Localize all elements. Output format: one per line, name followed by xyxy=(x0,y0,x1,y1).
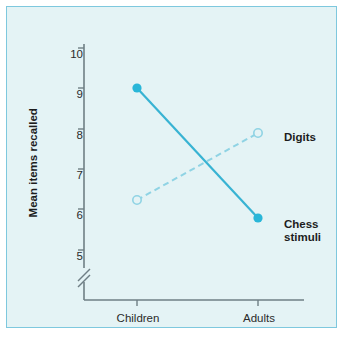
chart-panel: Mean items recalled 10 9 8 7 6 5 Childre… xyxy=(6,6,337,328)
y-tick-label-8: 8 xyxy=(61,130,83,142)
y-tick-label-6: 6 xyxy=(61,210,83,222)
y-tick-label-5: 5 xyxy=(61,251,83,263)
x-tick-label-adults: Adults xyxy=(214,313,304,325)
x-tick-label-children: Children xyxy=(93,313,183,325)
figure-container: Mean items recalled 10 9 8 7 6 5 Childre… xyxy=(0,0,351,348)
y-tick-label-9: 9 xyxy=(61,89,83,101)
caption-partial xyxy=(8,333,338,345)
y-tick-label-7: 7 xyxy=(61,170,83,182)
y-tick-label-10: 10 xyxy=(61,49,83,61)
series-label-digits: Digits xyxy=(284,131,316,144)
series-label-chess-stimuli: Chess stimuli xyxy=(284,218,321,244)
y-axis-label: Mean items recalled xyxy=(28,103,40,223)
